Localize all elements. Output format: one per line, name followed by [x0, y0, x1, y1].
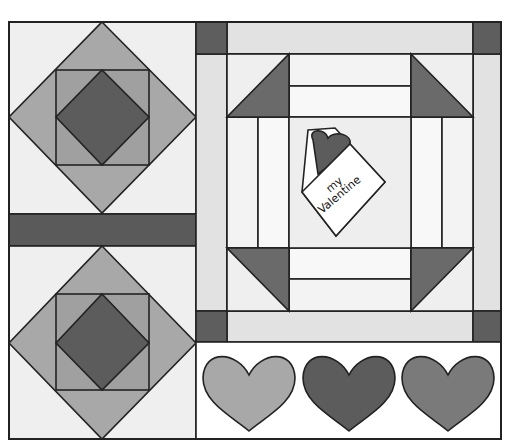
quilt-canvas: my Valentine	[0, 0, 508, 444]
square-in-square-bottom	[9, 246, 196, 439]
sashing-bar	[9, 214, 196, 246]
hearts-row	[196, 342, 501, 439]
framed-center-block: my Valentine	[196, 22, 501, 342]
square-in-square-top	[9, 22, 196, 214]
